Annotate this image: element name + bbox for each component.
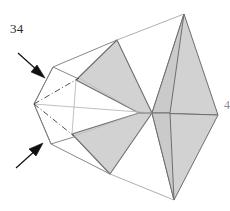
figure-number-label: 34 [10, 22, 23, 35]
figure-container: 34 4 [0, 0, 230, 211]
connector-lower-ridge [110, 174, 174, 200]
fold-arrow-upper [18, 53, 45, 78]
origami-diagram [0, 0, 230, 211]
connector-upper-ridge [117, 14, 184, 40]
edge-clipped-number-label: 4 [224, 99, 230, 111]
lower-right-shaded-flap [152, 113, 174, 200]
fold-arrow-lower [16, 143, 43, 168]
